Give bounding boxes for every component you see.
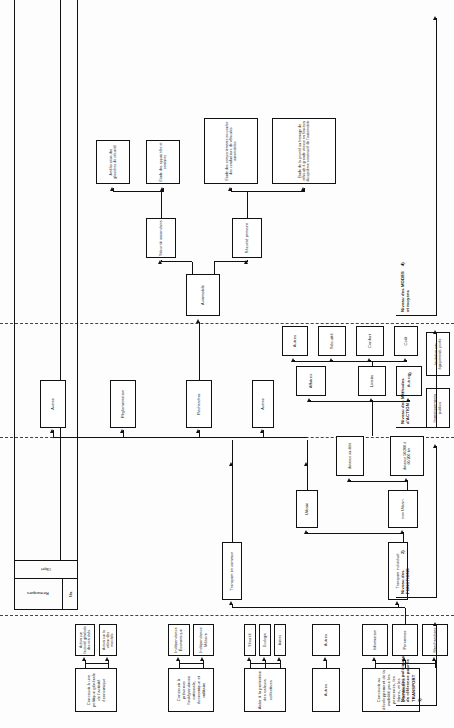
edge-arrow — [291, 358, 295, 362]
edge-n20-bus — [350, 481, 407, 482]
edge-arrow — [229, 462, 233, 466]
node-n32[interactable]: Réglementation — [110, 380, 136, 428]
node-n3[interactable]: Action sur la valeur des marchés — [99, 624, 117, 656]
node-n21[interactable]: distance au-delà — [336, 436, 364, 476]
edge-n35-dn-v — [214, 261, 247, 262]
node-n29[interactable]: Investissements publics — [426, 388, 450, 428]
node-n41[interactable]: Étude de la priorité au freinage de véhi… — [272, 118, 336, 184]
edge-arrow — [277, 657, 281, 661]
node-n37[interactable]: Sécurité secondaire — [146, 218, 176, 258]
edge-bus-3 — [250, 663, 280, 664]
edge-arrow — [105, 657, 109, 661]
node-n8[interactable]: Sécurité — [244, 624, 256, 656]
edge-n4-n6 — [203, 660, 204, 668]
edge-arrow — [395, 601, 399, 605]
edge-arrow — [301, 187, 305, 191]
bracket-arrow-1 — [433, 622, 437, 626]
node-n5[interactable]: Indépendance Économique — [168, 624, 190, 656]
bracket-1-h — [436, 624, 437, 706]
edge-arrow — [304, 530, 308, 534]
edge-arrow — [110, 187, 114, 191]
level-separator-3 — [0, 323, 454, 324]
node-n40[interactable]: Étude des comportements en courbe des co… — [204, 118, 258, 184]
level-number-1: 1) — [417, 698, 422, 702]
node-n14[interactable]: Information — [362, 624, 388, 656]
node-n34[interactable]: Autres — [252, 380, 274, 428]
node-n17[interactable]: Transport en commun — [222, 542, 242, 600]
bracket-2-h — [436, 446, 437, 598]
edge-sec1-bus — [231, 191, 304, 192]
node-n30[interactable]: Incitation aux équipements privés — [426, 332, 450, 376]
edge-bus-1 — [85, 663, 108, 664]
level-label-4: Niveau des MODES et moyens — [400, 222, 411, 312]
edge-n13-n14 — [375, 660, 376, 668]
node-n23[interactable]: Affaires — [296, 366, 326, 396]
edge-n17-out — [232, 440, 233, 542]
edge-arrow — [82, 657, 86, 661]
edge-n24-out — [372, 362, 373, 366]
edge-n37-out — [161, 192, 162, 218]
edge-arrow — [160, 187, 164, 191]
bracket-arrow-3 — [433, 330, 437, 334]
bracket-arrow-2 — [433, 444, 437, 448]
node-n1[interactable]: Concourir à une politique générale de l'… — [75, 668, 117, 712]
node-n11[interactable]: Autres — [312, 668, 340, 712]
node-n31[interactable]: Recherches — [186, 380, 212, 428]
level-label-2: Niveau des FONCTIONS — [400, 514, 411, 594]
node-n4[interactable]: Concourir à préserver l'indépendance nat… — [168, 668, 214, 712]
node-n9[interactable]: Écologie — [259, 624, 271, 656]
node-n2[interactable]: Action sur l'activité générale des march… — [75, 624, 95, 656]
legend-col-remarques: Remarques — [14, 579, 62, 609]
edge-arrow — [229, 601, 233, 605]
edge-n18-bus — [307, 533, 403, 534]
bracket-3-h — [436, 332, 437, 428]
edge-n31-n35 — [199, 322, 200, 380]
edge-bus-2 — [179, 663, 203, 664]
level-label-1: Niveau des politiques de référence pour … — [400, 622, 416, 702]
level-number-4: 4) — [400, 262, 405, 266]
edge-arrow — [304, 462, 308, 466]
legend-frame-bottom — [77, 0, 78, 610]
node-n22[interactable]: distance 50/200 à 60/200 km — [390, 436, 424, 476]
edge-arrow — [404, 478, 408, 482]
edge-n35-up-v — [161, 261, 192, 262]
node-n12[interactable]: Autres — [312, 624, 340, 656]
edge-arrow — [176, 657, 180, 661]
node-n26-autres[interactable]: Autres — [282, 326, 308, 356]
edge-purpose-bus — [310, 401, 409, 402]
edge-arrow — [329, 358, 333, 362]
node-n27[interactable]: Confort — [356, 326, 384, 356]
edge-arrow — [323, 657, 327, 661]
edge-arrow — [372, 657, 376, 661]
edge-arrow — [260, 429, 264, 433]
level-label-3: Niveau des Méthodes d'ACTION — [400, 334, 411, 424]
bracket-3-v — [396, 427, 436, 428]
diagram-sheet: No. Objet Remarques Concourir à une poli… — [0, 0, 454, 728]
node-n26[interactable]: Sécurité — [318, 326, 346, 356]
edge-arrow — [367, 358, 371, 362]
level-number-3: 3) — [407, 372, 412, 376]
node-n10[interactable]: Autres — [274, 624, 286, 656]
bracket-4-v — [396, 315, 436, 316]
node-n19[interactable]: Urbain — [296, 490, 318, 528]
node-n24[interactable]: Loisirs — [358, 366, 386, 396]
edge-arrow — [262, 657, 266, 661]
node-n16[interactable]: Marchandises — [422, 624, 448, 656]
edge-arrow — [247, 657, 251, 661]
edge-arrow — [196, 319, 200, 323]
edge-arrow — [200, 657, 204, 661]
bracket-1-v — [396, 705, 436, 706]
edge-n7-n10 — [280, 660, 281, 668]
node-n39[interactable]: Étude des appuis tête et ceintures — [146, 140, 180, 184]
node-n33[interactable]: Autres — [40, 380, 66, 428]
edge-split-bus — [232, 607, 405, 608]
node-n7[interactable]: Aider à la protection des valeurs collec… — [244, 668, 286, 712]
edge-arrow — [158, 260, 162, 264]
node-n35[interactable]: Automobile — [186, 274, 220, 316]
node-n38[interactable]: Amélioration des glissières de sécurité — [96, 140, 130, 184]
node-n36[interactable]: Sécurité primaire — [232, 218, 262, 258]
bracket-4-h — [436, 18, 437, 316]
level-separator-1 — [0, 615, 454, 616]
node-n6[interactable]: Indépendance Militaire — [193, 624, 214, 656]
legend-frame-top — [14, 0, 15, 610]
